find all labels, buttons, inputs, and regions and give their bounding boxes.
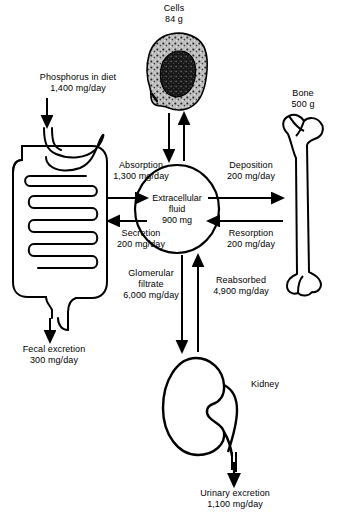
kidney-illustration	[163, 358, 237, 456]
secretion-label: Secretion 200 mg/day	[100, 228, 182, 250]
glomerular-filtrate-label: Glomerular filtrate 6,000 mg/day	[118, 268, 184, 301]
urinary-excretion-label: Urinary excretion 1,100 mg/day	[165, 488, 305, 510]
reabsorbed-label: Reabsorbed 4,900 mg/day	[200, 275, 282, 297]
bone-illustration	[283, 115, 323, 296]
kidney-label: Kidney	[240, 379, 290, 390]
phosphorus-in-diet-label: Phosphorus in diet 1,400 mg/day	[20, 72, 136, 94]
cells-label: Cells 84 g	[139, 3, 209, 25]
resorption-label: Resorption 200 mg/day	[210, 228, 292, 250]
bone-label: Bone 500 g	[273, 88, 333, 110]
cells-illustration	[147, 33, 207, 110]
deposition-label: Deposition 200 mg/day	[210, 160, 292, 182]
fecal-excretion-label: Fecal excretion 300 mg/day	[2, 344, 106, 366]
gi-tract-illustration	[13, 128, 107, 330]
diagram-canvas: Cells 84 g Bone 500 g Phosphorus in diet…	[0, 0, 338, 516]
absorption-label: Absorption 1,300 mg/day	[100, 160, 182, 182]
extracellular-fluid-label: Extracellular fluid 900 mg	[137, 193, 217, 226]
